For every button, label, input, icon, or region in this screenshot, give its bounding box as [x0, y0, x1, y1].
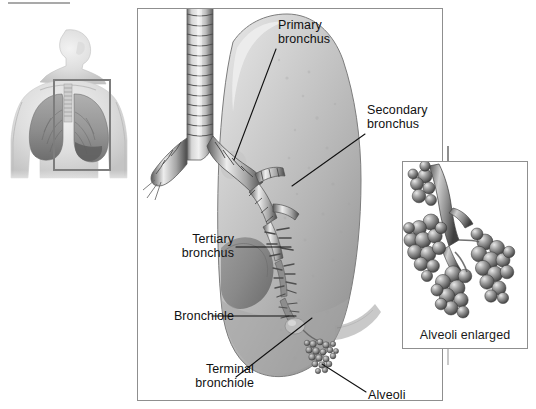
label-alveoli: Alveoli: [368, 388, 406, 402]
label-tertiary-bronchus: Tertiary bronchus: [150, 232, 234, 260]
figure-canvas: Alveoli enlarged Primary bronchus Second…: [0, 0, 536, 409]
label-primary-bronchus: Primary bronchus: [278, 18, 330, 46]
label-secondary-bronchus: Secondary bronchus: [367, 103, 428, 131]
label-bronchiole: Bronchiole: [140, 309, 234, 323]
leader-primary: [234, 49, 276, 160]
leader-alveoli: [322, 364, 366, 392]
label-terminal-bronchiole: Terminal bronchiole: [168, 362, 254, 390]
leader-line-layer: [0, 0, 536, 409]
leader-secondary: [292, 134, 365, 186]
